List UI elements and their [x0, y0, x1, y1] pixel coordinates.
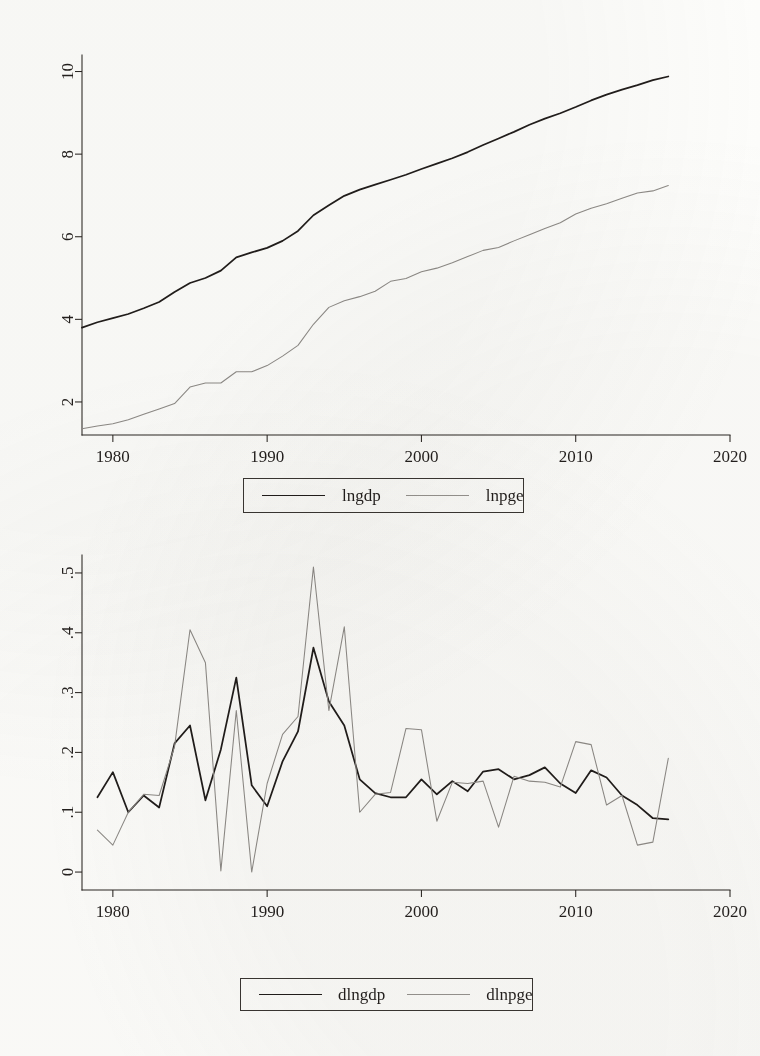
chart-panel-levels: 24681019801990200020102020 lngdp lnpge [0, 0, 760, 530]
legend-label-lnpge: lnpge [486, 486, 524, 506]
legend-entry-lnpge: lnpge [406, 479, 524, 512]
y-tick-label: 2 [59, 398, 78, 407]
series-line-lngdp [82, 76, 668, 327]
legend-entry-lngdp: lngdp [262, 479, 381, 512]
x-tick-label: 1980 [96, 902, 130, 921]
series-line-dlnpge [97, 567, 668, 872]
legend-label-dlnpge: dlnpge [486, 985, 532, 1005]
legend-line-swatch-dlnpge [407, 994, 470, 995]
legend-label-lngdp: lngdp [342, 486, 381, 506]
y-tick-label: .3 [59, 686, 78, 699]
y-tick-label: .1 [59, 806, 78, 819]
legend-entry-dlnpge: dlnpge [407, 979, 532, 1010]
legend-levels: lngdp lnpge [243, 478, 524, 513]
y-tick-label: 4 [59, 315, 78, 324]
x-tick-label: 2010 [559, 447, 593, 466]
levels-line-chart: 24681019801990200020102020 [0, 0, 760, 530]
legend-entry-dlngdp: dlngdp [259, 979, 385, 1010]
legend-label-dlngdp: dlngdp [338, 985, 385, 1005]
y-tick-label: 10 [59, 63, 78, 80]
x-tick-label: 1990 [250, 447, 284, 466]
y-tick-label: .5 [59, 567, 78, 580]
y-tick-label: 8 [59, 150, 78, 159]
x-tick-label: 1980 [96, 447, 130, 466]
y-tick-label: 0 [59, 868, 78, 877]
legend-differences: dlngdp dlnpge [240, 978, 533, 1011]
legend-line-swatch-lngdp [262, 495, 325, 496]
x-tick-label: 1990 [250, 902, 284, 921]
x-tick-label: 2020 [713, 447, 747, 466]
legend-line-swatch-lnpge [406, 495, 469, 496]
legend-line-swatch-dlngdp [259, 994, 322, 995]
y-tick-label: .2 [59, 746, 78, 759]
figure-page: 24681019801990200020102020 lngdp lnpge 0… [0, 0, 760, 1056]
x-tick-label: 2000 [404, 447, 438, 466]
y-tick-label: .4 [59, 626, 78, 639]
x-tick-label: 2020 [713, 902, 747, 921]
x-tick-label: 2010 [559, 902, 593, 921]
series-line-lnpge [82, 186, 668, 429]
y-tick-label: 6 [59, 232, 78, 241]
x-tick-label: 2000 [404, 902, 438, 921]
